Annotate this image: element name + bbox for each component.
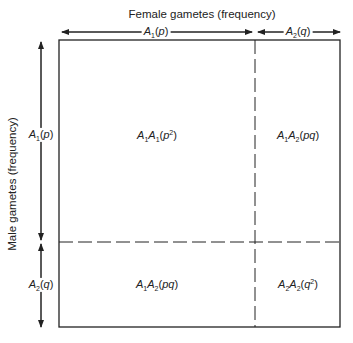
female-a1-label: A1(p) xyxy=(142,25,171,39)
female-gametes-title: Female gametes (frequency) xyxy=(128,8,275,20)
cell-a2a2: A2A2(q2) xyxy=(278,278,318,293)
cell-a1a2-top: A1A2(pq) xyxy=(277,129,319,143)
male-gametes-title: Male gametes (frequency) xyxy=(6,117,18,251)
female-a2-label: A2(q) xyxy=(284,25,313,39)
male-a2-label: A2(q) xyxy=(27,278,56,292)
male-a1-label: A1(p) xyxy=(27,128,56,142)
cell-a1a2-bottom: A1A2(pq) xyxy=(136,278,178,292)
cell-a1a1: A1A1(p2) xyxy=(137,129,177,144)
